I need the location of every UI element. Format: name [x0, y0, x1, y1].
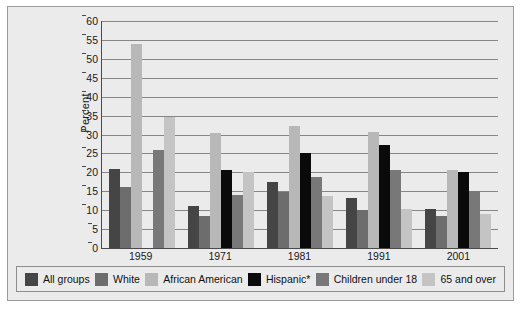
y-axis-tick-mark	[88, 223, 92, 224]
bar	[210, 133, 221, 248]
bar	[243, 172, 254, 248]
legend-swatch	[316, 273, 329, 286]
bar	[199, 216, 210, 248]
bar	[311, 177, 322, 248]
legend-item: African American	[145, 273, 242, 286]
y-axis-tick-label: 5	[92, 223, 98, 235]
bar	[300, 153, 311, 248]
y-axis-tick-mark	[82, 91, 86, 92]
legend-item: Children under 18	[316, 273, 417, 286]
bar	[401, 209, 412, 248]
y-axis-tick-label: 35	[86, 110, 98, 122]
y-axis-tick-label: 30	[86, 129, 98, 141]
chart-legend: All groupsWhiteAfrican AmericanHispanic*…	[16, 266, 505, 292]
bar	[131, 44, 142, 248]
y-axis-tick-label: 60	[86, 15, 98, 27]
legend-swatch	[422, 273, 435, 286]
bar-groups	[102, 21, 498, 248]
bar	[278, 192, 289, 248]
bar	[425, 209, 436, 248]
bar	[221, 170, 232, 248]
y-axis-tick-label: 10	[86, 204, 98, 216]
bar	[447, 170, 458, 248]
legend-label: White	[113, 273, 140, 285]
legend-swatch	[248, 273, 261, 286]
bar	[346, 198, 357, 248]
bar-group	[419, 21, 498, 248]
x-axis-labels: 19591971198119912001	[101, 250, 498, 262]
bar	[232, 195, 243, 248]
y-axis-tick-label: 40	[86, 91, 98, 103]
plot-area: Percent 051015202530354045505560 1959197…	[73, 21, 498, 249]
legend-swatch	[95, 273, 108, 286]
y-axis-tick-mark	[82, 110, 86, 111]
x-axis-label: 2001	[419, 250, 498, 262]
bar	[289, 126, 300, 248]
y-axis-tick-mark	[88, 242, 92, 243]
y-axis-tick-label: 55	[86, 34, 98, 46]
bar	[120, 187, 131, 248]
y-axis-tick-mark	[82, 72, 86, 73]
y-axis-tick-label: 25	[86, 147, 98, 159]
y-axis-tick-mark	[82, 34, 86, 35]
legend-item: 65 and over	[422, 273, 495, 286]
x-axis-label: 1991	[339, 250, 418, 262]
y-axis-tick-mark	[82, 53, 86, 54]
legend-swatch	[25, 273, 38, 286]
bar	[436, 216, 447, 248]
legend-swatch	[145, 273, 158, 286]
x-axis-label: 1959	[101, 250, 180, 262]
y-axis-tick-mark	[82, 147, 86, 148]
bar-group	[260, 21, 339, 248]
bar	[469, 191, 480, 249]
y-axis-tick-mark	[82, 129, 86, 130]
y-axis-tick-mark	[82, 185, 86, 186]
bar	[390, 170, 401, 248]
legend-label: 65 and over	[440, 273, 495, 285]
x-axis-label: 1971	[180, 250, 259, 262]
chart-figure: Percent 051015202530354045505560 1959197…	[7, 6, 514, 301]
y-axis-tick-mark	[82, 15, 86, 16]
legend-item: White	[95, 273, 140, 286]
bar-group	[181, 21, 260, 248]
y-axis-tick-mark	[82, 204, 86, 205]
plot-grid: 051015202530354045505560	[101, 21, 498, 249]
bar	[480, 214, 491, 248]
legend-item: Hispanic*	[248, 273, 310, 286]
bar	[368, 132, 379, 248]
legend-label: Hispanic*	[266, 273, 310, 285]
legend-label: All groups	[43, 273, 90, 285]
bar	[267, 182, 278, 248]
y-axis-tick-label: 15	[86, 185, 98, 197]
legend-label: Children under 18	[334, 273, 417, 285]
y-axis-tick-label: 45	[86, 72, 98, 84]
x-axis-label: 1981	[260, 250, 339, 262]
bar-group	[102, 21, 181, 248]
bar	[153, 150, 164, 248]
bar	[164, 117, 175, 248]
bar	[357, 210, 368, 248]
legend-label: African American	[163, 273, 242, 285]
bar-group	[340, 21, 419, 248]
y-axis-tick-label: 20	[86, 166, 98, 178]
bar	[458, 172, 469, 248]
bar	[109, 169, 120, 248]
y-axis-tick-label: 0	[92, 242, 98, 254]
bar	[188, 206, 199, 248]
bar	[322, 196, 333, 248]
y-axis-tick-mark	[82, 166, 86, 167]
bar	[379, 145, 390, 248]
legend-item: All groups	[25, 273, 90, 286]
y-axis-tick-label: 50	[86, 53, 98, 65]
